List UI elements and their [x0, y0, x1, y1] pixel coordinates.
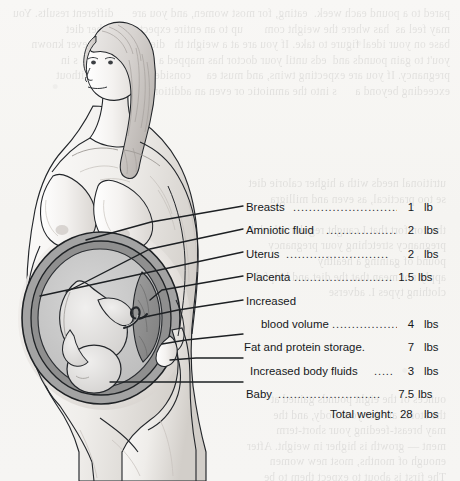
- label-unit-amniotic-fluid: lbs: [424, 219, 439, 242]
- label-unit-breasts: lb: [424, 196, 433, 219]
- label-name-uterus: Uterus: [246, 243, 280, 266]
- label-row-breasts: Breasts ............................ 1 l…: [246, 196, 458, 219]
- figure-body: [18, 22, 243, 481]
- label-row-fat-and-protein-storage: Fat and protein storage. 7 lbs: [246, 336, 458, 359]
- label-dots-amniotic-fluid: ..................: [326, 219, 397, 242]
- label-name-placenta: Placenta: [246, 266, 290, 289]
- label-row-amniotic-fluid: Amniotic fluid .................. 2 lbs: [246, 219, 458, 242]
- total-weight-value: 28: [400, 408, 413, 420]
- label-unit-baby: lbs: [418, 383, 433, 406]
- label-unit-uterus: lbs: [424, 243, 439, 266]
- total-weight-unit: lbs: [424, 408, 439, 420]
- label-dots-uterus: ..........................: [286, 243, 397, 266]
- label-name-breasts: Breasts: [246, 196, 285, 219]
- label-value-uterus: 2: [392, 243, 414, 266]
- label-unit-fat-and-protein-storage: lbs: [424, 336, 439, 359]
- label-value-blood-volume: 4: [392, 313, 414, 336]
- label-name-increased: Increased: [246, 290, 296, 313]
- label-value-placenta: 1.5: [386, 266, 414, 289]
- label-dots-baby: ..........................: [278, 383, 393, 406]
- label-unit-increased-body-fluids: lbs: [424, 360, 439, 383]
- label-unit-blood-volume: lbs: [424, 313, 439, 336]
- label-row-placenta: Placenta ......................... 1.5 l…: [246, 266, 458, 289]
- label-value-baby: 7.5: [386, 383, 414, 406]
- label-name-fat-and-protein-storage: Fat and protein storage.: [244, 336, 365, 359]
- label-unit-placenta: lbs: [418, 266, 433, 289]
- label-value-fat-and-protein-storage: 7: [392, 336, 414, 359]
- label-value-amniotic-fluid: 2: [392, 219, 414, 242]
- label-row-blood-volume: blood volume .................. 4 lbs: [246, 313, 458, 336]
- areola-left: [56, 225, 69, 235]
- label-name-baby: Baby: [246, 383, 272, 406]
- label-value-increased-body-fluids: 3: [392, 360, 414, 383]
- weight-label-list: Breasts ............................ 1 l…: [246, 196, 458, 407]
- label-dots-blood-volume: ..................: [332, 313, 397, 336]
- label-row-baby: Baby .......................... 7.5 lbs: [246, 383, 458, 406]
- total-weight-label: Total weight:: [330, 408, 393, 420]
- label-name-amniotic-fluid: Amniotic fluid: [246, 219, 314, 242]
- label-name-blood-volume: blood volume: [261, 313, 329, 336]
- label-dots-breasts: ............................: [293, 196, 397, 219]
- label-row-increased: Increased: [246, 290, 458, 313]
- label-value-breasts: 1: [392, 196, 414, 219]
- label-row-increased-body-fluids: Increased body fluids ..... 3 lbs: [246, 360, 458, 383]
- label-name-increased-body-fluids: Increased body fluids: [250, 360, 358, 383]
- label-dots-placenta: .........................: [294, 266, 393, 289]
- scanned-page: pared to a pound each week. eating, for …: [0, 0, 460, 481]
- label-row-uterus: Uterus .......................... 2 lbs: [246, 243, 458, 266]
